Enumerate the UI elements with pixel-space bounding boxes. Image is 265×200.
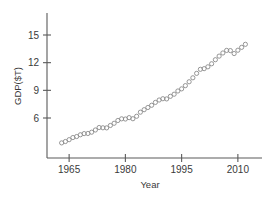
gdp-scatter-chart: 691215 1965198019952010 GDP($T) Year (0, 0, 265, 200)
data-point (206, 65, 210, 69)
y-axis-title: GDP($T) (12, 67, 23, 105)
data-point-series (60, 42, 248, 145)
x-axis-title: Year (140, 179, 159, 190)
y-axis-tick-labels: 691215 (28, 30, 40, 124)
data-point (180, 87, 184, 91)
x-axis-tick-labels: 1965198019952010 (58, 164, 249, 175)
data-point (243, 42, 247, 46)
x-tick-label: 1965 (58, 164, 81, 175)
data-point (240, 45, 244, 49)
data-point (210, 62, 214, 66)
data-point (172, 92, 176, 96)
data-point (195, 71, 199, 75)
y-tick-label: 12 (28, 57, 40, 68)
data-point (236, 48, 240, 52)
plot-area: 691215 1965198019952010 GDP($T) Year (0, 0, 265, 200)
data-point (191, 76, 195, 80)
data-point (232, 51, 236, 55)
data-point (150, 103, 154, 107)
x-tick-label: 1995 (171, 164, 194, 175)
data-point (183, 84, 187, 88)
y-tick-label: 15 (28, 30, 40, 41)
data-point (112, 121, 116, 125)
x-tick-label: 1980 (114, 164, 137, 175)
y-tick-label: 6 (33, 113, 39, 124)
data-point (135, 114, 139, 118)
y-tick-label: 9 (33, 85, 39, 96)
x-tick-label: 2010 (227, 164, 250, 175)
data-point (213, 58, 217, 62)
data-point (217, 54, 221, 58)
data-point (187, 80, 191, 84)
